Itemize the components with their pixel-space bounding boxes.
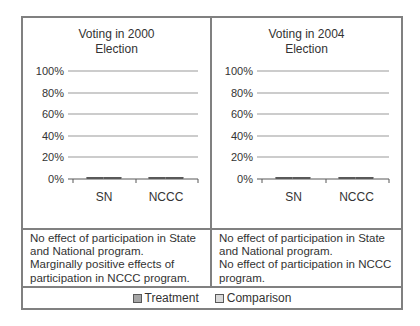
- x-category-label: NCCC: [339, 190, 374, 204]
- legend: TreatmentComparison: [23, 286, 401, 308]
- bar-group-nccc: [339, 177, 374, 179]
- bar-group-sn: [87, 177, 122, 179]
- chart-title-2000: Voting in 2000 Election: [66, 27, 168, 57]
- gridline: [68, 92, 198, 93]
- bar-treatment-nccc: [149, 177, 167, 179]
- bar-treatment-nccc: [339, 177, 357, 179]
- note-cell-2004: No effect of participation in State and …: [212, 230, 401, 286]
- x-axis-tick: [325, 179, 326, 183]
- bar-treatment-sn: [87, 177, 105, 179]
- gridline: [68, 71, 198, 72]
- charts-row: Voting in 2000 Election 100%80%60%40%20%…: [23, 18, 401, 228]
- gridline: [257, 135, 389, 136]
- x-axis-tick: [73, 179, 74, 183]
- gridline: [68, 157, 198, 158]
- y-axis: 100%80%60%40%20%0%: [23, 71, 73, 179]
- chart-panel-2000: Voting in 2000 Election 100%80%60%40%20%…: [23, 18, 212, 228]
- x-category-label: NCCC: [149, 190, 184, 204]
- note-line: No effect of participation in State and …: [30, 232, 196, 257]
- y-tick-label: 0%: [237, 173, 253, 185]
- bar-comparison-nccc: [356, 177, 374, 179]
- bar-comparison-sn: [293, 177, 311, 179]
- figure-box: Voting in 2000 Election 100%80%60%40%20%…: [21, 16, 403, 310]
- x-axis-tick: [198, 179, 199, 183]
- chart-title-2004: Voting in 2004 Election: [256, 27, 358, 57]
- y-tick-label: 40%: [231, 130, 253, 142]
- chart-body: 100%80%60%40%20%0% SNNCCC: [212, 71, 401, 179]
- legend-label: Treatment: [145, 291, 199, 305]
- x-axis-tick: [389, 179, 390, 183]
- bar-treatment-sn: [276, 177, 294, 179]
- gridline: [257, 157, 389, 158]
- note-line: No effect of participation in NCCC progr…: [219, 258, 391, 283]
- chart-panel-2004: Voting in 2004 Election 100%80%60%40%20%…: [212, 18, 401, 228]
- bar-comparison-sn: [104, 177, 122, 179]
- x-category-label: SN: [96, 190, 113, 204]
- y-tick-label: 100%: [225, 65, 253, 77]
- gridline: [257, 92, 389, 93]
- plot-area: SNNCCC: [73, 71, 198, 179]
- y-tick-label: 100%: [36, 65, 64, 77]
- legend-swatch-treatment: [133, 294, 142, 303]
- gridline: [68, 135, 198, 136]
- note-line: No effect of participation in State and …: [219, 232, 385, 257]
- plot-area: SNNCCC: [262, 71, 389, 179]
- y-tick-label: 80%: [42, 87, 64, 99]
- legend-item-comparison: Comparison: [215, 291, 292, 305]
- bar-comparison-nccc: [166, 177, 184, 179]
- legend-swatch-comparison: [215, 294, 224, 303]
- notes-row: No effect of participation in State and …: [23, 228, 401, 286]
- y-tick-label: 60%: [42, 108, 64, 120]
- note-line: Marginally positive effects of participa…: [30, 258, 190, 283]
- gridline: [257, 114, 389, 115]
- y-tick-label: 60%: [231, 108, 253, 120]
- y-tick-label: 40%: [42, 130, 64, 142]
- bar-group-sn: [276, 177, 311, 179]
- x-axis-tick: [262, 179, 263, 183]
- y-axis: 100%80%60%40%20%0%: [212, 71, 262, 179]
- y-tick-label: 80%: [231, 87, 253, 99]
- y-tick-label: 20%: [42, 151, 64, 163]
- x-axis-tick: [135, 179, 136, 183]
- legend-item-treatment: Treatment: [133, 291, 199, 305]
- y-tick-label: 0%: [48, 173, 64, 185]
- legend-label: Comparison: [227, 291, 292, 305]
- gridline: [257, 71, 389, 72]
- x-category-label: SN: [285, 190, 302, 204]
- y-tick-label: 20%: [231, 151, 253, 163]
- chart-body: 100%80%60%40%20%0% SNNCCC: [23, 71, 210, 179]
- bar-group-nccc: [149, 177, 184, 179]
- note-cell-2000: No effect of participation in State and …: [23, 230, 212, 286]
- gridline: [68, 114, 198, 115]
